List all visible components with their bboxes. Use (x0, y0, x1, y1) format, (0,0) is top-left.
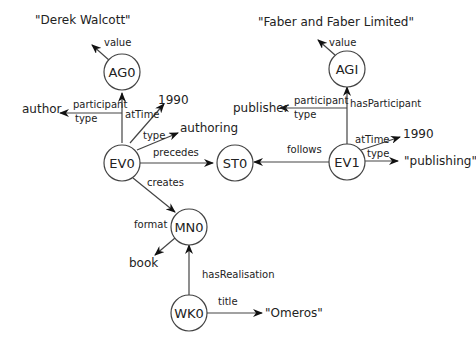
node-label: ST0 (223, 156, 247, 171)
rdf-graph-diagram: AG0 AGI EV0 ST0 EV1 MN0 WK0 "Derek Walco… (0, 0, 476, 350)
edge-label-format: format (134, 219, 167, 230)
edge-label-type: type (75, 113, 97, 124)
literal-year-ev0: 1990 (158, 93, 189, 107)
edge-label-hasparticipant: hasParticipant (350, 98, 421, 109)
edge-label-attime: atTime (125, 109, 160, 120)
edge-label-attime: atTime (355, 134, 390, 145)
literal-faber-and-faber: "Faber and Faber Limited" (258, 15, 414, 29)
edge-mn0-format (155, 238, 175, 255)
node-st0: ST0 (217, 145, 253, 181)
node-ev0: EV0 (104, 145, 140, 181)
edge-label-follows: follows (287, 144, 322, 155)
node-label: MN0 (174, 220, 203, 235)
literal-publisher: publisher (233, 101, 289, 115)
edge-label-hasrealisation: hasRealisation (202, 269, 275, 280)
edge-label-title: title (218, 296, 238, 307)
node-agi: AGI (329, 51, 365, 87)
literal-derek-walcott: "Derek Walcott" (35, 13, 131, 27)
literal-publishing: "publishing" (404, 154, 476, 168)
edge-label-type: type (367, 148, 389, 159)
edge-label-participant: participant (73, 99, 127, 110)
node-wk0: WK0 (171, 295, 207, 331)
node-label: EV0 (109, 156, 134, 171)
literal-book: book (129, 256, 158, 270)
literal-author: author (22, 102, 62, 116)
edge-label-precedes: precedes (153, 147, 199, 158)
literal-year-ev1: 1990 (403, 127, 434, 141)
edge-label-participant: participant (294, 95, 348, 106)
edge-label-value: value (329, 37, 356, 48)
literal-omeros: "Omeros" (265, 306, 323, 320)
edge-label-creates: creates (147, 177, 184, 188)
node-label: AG0 (108, 65, 135, 80)
node-label: WK0 (174, 306, 204, 321)
node-label: EV1 (334, 155, 359, 170)
edge-label-type: type (294, 109, 316, 120)
edge-label-type: type (143, 130, 165, 141)
literal-authoring: authoring (180, 121, 238, 135)
node-ag0: AG0 (104, 54, 140, 90)
node-ev1: EV1 (329, 144, 365, 180)
node-mn0: MN0 (171, 209, 207, 245)
node-label: AGI (336, 62, 359, 77)
edge-label-value: value (104, 37, 131, 48)
